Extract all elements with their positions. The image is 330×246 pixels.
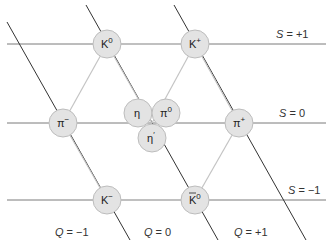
label-S-plus1: S = +1 bbox=[276, 28, 308, 40]
label-Q-0: Q = 0 bbox=[144, 226, 171, 238]
particle-K-plus: K+ bbox=[181, 30, 209, 58]
label-S-0: S = 0 bbox=[279, 107, 305, 119]
svg-text:η: η bbox=[134, 107, 140, 119]
particle-K0-bar: K0 bbox=[181, 186, 209, 214]
label-Q-minus1: Q = −1 bbox=[55, 226, 89, 238]
label-S-minus1: S = −1 bbox=[288, 184, 320, 196]
meson-nonet-diagram: K0 K+ π− π+ η π0 η′ K− K0 S = +1 S = 0 S… bbox=[0, 0, 330, 246]
particle-pi-minus: π− bbox=[49, 109, 77, 137]
particle-pi-plus: π+ bbox=[225, 109, 253, 137]
particle-K0: K0 bbox=[93, 30, 121, 58]
hexagon-edges bbox=[63, 44, 239, 200]
particle-K-minus: K− bbox=[93, 186, 121, 214]
particle-eta-prime: η′ bbox=[138, 124, 166, 152]
particle-pi0: π0 bbox=[152, 99, 180, 127]
particle-eta: η bbox=[124, 99, 152, 127]
label-Q-plus1: Q = +1 bbox=[234, 226, 268, 238]
